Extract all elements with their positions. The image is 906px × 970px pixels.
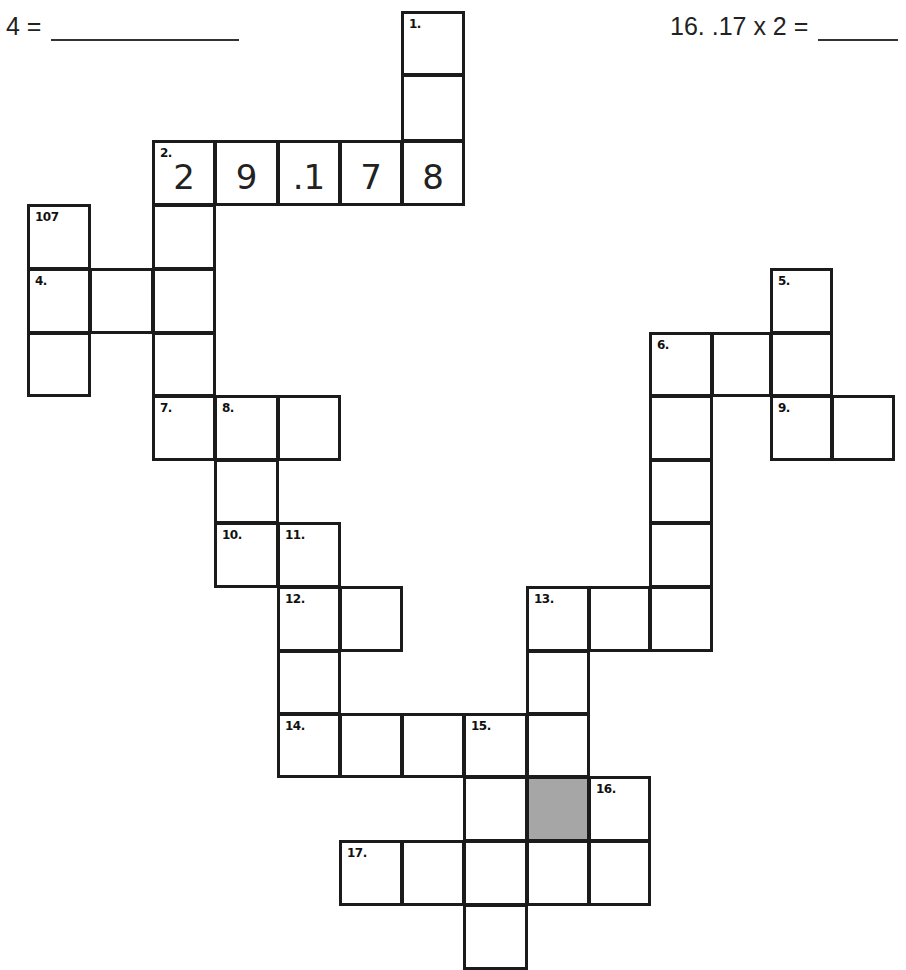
clue-number: 6. xyxy=(657,338,669,352)
cell-6[interactable]: 6. xyxy=(649,332,713,397)
grid-cell[interactable] xyxy=(526,650,590,715)
grid-cell[interactable]: 7 xyxy=(339,140,403,206)
grid-cell[interactable] xyxy=(831,395,895,461)
clue-number: 10. xyxy=(222,528,242,542)
grid-cell[interactable]: 8 xyxy=(401,140,465,206)
grid-cell[interactable] xyxy=(401,713,465,778)
grid-cell[interactable] xyxy=(649,586,713,652)
grid-cell[interactable] xyxy=(89,268,154,334)
grid-cell[interactable] xyxy=(526,840,590,906)
clue-number: 1. xyxy=(409,17,421,31)
clue-number: 15. xyxy=(471,719,491,733)
cell-7[interactable]: 7. xyxy=(152,395,216,461)
cell-107[interactable]: 107 xyxy=(27,204,91,270)
grid-cell[interactable]: 9 xyxy=(214,140,279,206)
cell-4[interactable]: 4. xyxy=(27,268,91,334)
grid-cell[interactable] xyxy=(770,332,833,397)
grid-cell[interactable] xyxy=(277,395,341,461)
clue-number: 8. xyxy=(222,401,234,415)
cell-11[interactable]: 11. xyxy=(277,522,341,588)
clue-number: 11. xyxy=(285,528,305,542)
cell-15[interactable]: 15. xyxy=(463,713,528,778)
grid-cell[interactable] xyxy=(152,268,216,334)
grid-cell[interactable] xyxy=(339,713,403,778)
clue-number: 12. xyxy=(285,592,305,606)
clue-number: 16. xyxy=(596,782,616,796)
clue-number: 9. xyxy=(778,401,790,415)
cell-16[interactable]: 16. xyxy=(588,776,651,842)
grid-cell[interactable] xyxy=(588,586,651,652)
clue-number: 4. xyxy=(35,274,47,288)
grid-cell[interactable] xyxy=(588,840,651,906)
grid-cell[interactable] xyxy=(401,840,465,906)
cell-9[interactable]: 9. xyxy=(770,395,833,461)
grid-cell[interactable] xyxy=(277,650,341,715)
grid-cell[interactable] xyxy=(339,586,403,652)
clue-number: 14. xyxy=(285,719,305,733)
grid-cell[interactable] xyxy=(649,395,713,461)
cell-14[interactable]: 14. xyxy=(277,713,341,778)
grid-cell[interactable] xyxy=(463,904,528,970)
grid-cell[interactable] xyxy=(649,522,713,588)
clue-number: 7. xyxy=(160,401,172,415)
clue-number: 17. xyxy=(347,846,367,860)
grid-cell[interactable] xyxy=(27,332,91,397)
cell-13[interactable]: 13. xyxy=(526,586,590,652)
cell-17[interactable]: 17. xyxy=(339,840,403,906)
grid-cell[interactable] xyxy=(711,332,772,397)
grid-cell[interactable] xyxy=(463,776,528,842)
cell-1[interactable]: 1. xyxy=(401,11,465,76)
clue-number: 107 xyxy=(35,210,59,224)
grid-cell[interactable] xyxy=(526,713,590,778)
cell-2[interactable]: 2.2 xyxy=(152,140,216,206)
cell-answer: 2 xyxy=(155,157,213,197)
cell-answer: 7 xyxy=(342,157,400,197)
clue-number: 5. xyxy=(778,274,790,288)
grid-cell[interactable]: .1 xyxy=(277,140,341,206)
cell-12[interactable]: 12. xyxy=(277,586,341,652)
grid-cell[interactable] xyxy=(463,840,528,906)
grid-cell[interactable] xyxy=(214,459,279,524)
grid-cell[interactable] xyxy=(152,332,216,397)
cell-10[interactable]: 10. xyxy=(214,522,279,588)
cell-answer: 8 xyxy=(404,157,462,197)
cell-answer: 9 xyxy=(217,157,276,197)
shaded-cell xyxy=(526,776,590,842)
grid-cell[interactable] xyxy=(649,459,713,524)
clue-number: 13. xyxy=(534,592,554,606)
cell-answer: .1 xyxy=(280,157,338,197)
grid-cell[interactable] xyxy=(152,204,216,270)
grid-cell[interactable] xyxy=(401,74,465,142)
cell-5[interactable]: 5. xyxy=(770,268,833,334)
cell-8[interactable]: 8. xyxy=(214,395,279,461)
